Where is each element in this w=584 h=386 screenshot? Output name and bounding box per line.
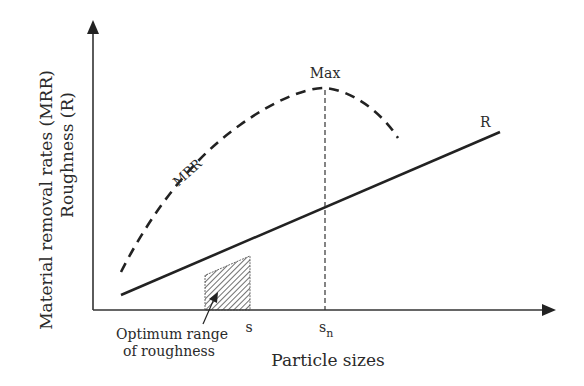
optimum-range-region bbox=[205, 256, 250, 310]
tick-sn-label: sn bbox=[319, 319, 333, 340]
annotation-line2: of roughness bbox=[123, 343, 215, 359]
diagram-canvas: Material removal rates (MRR) Roughness (… bbox=[0, 0, 584, 386]
y-axis-label-line1: Material removal rates (MRR) bbox=[36, 70, 56, 330]
x-axis-arrow-icon bbox=[542, 304, 556, 316]
y-axis bbox=[87, 20, 99, 310]
max-label: Max bbox=[310, 65, 341, 81]
y-axis-arrow-icon bbox=[87, 20, 99, 34]
tick-s-label: s bbox=[245, 319, 252, 335]
tick-sn-sub: n bbox=[326, 327, 333, 340]
r-label: R bbox=[480, 114, 491, 130]
mrr-curve bbox=[121, 88, 398, 272]
tick-sn-base: s bbox=[319, 319, 326, 335]
x-axis-label: Particle sizes bbox=[271, 350, 385, 370]
y-axis-label-line2: Roughness (R) bbox=[57, 92, 77, 218]
annotation-line1: Optimum range bbox=[116, 326, 228, 342]
roughness-line bbox=[121, 132, 500, 295]
